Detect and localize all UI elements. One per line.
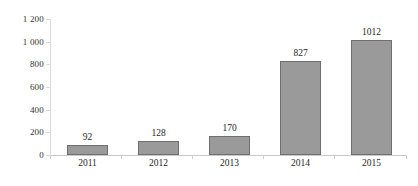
- bar-value-2013: 170: [202, 123, 257, 133]
- x-axis-tick: [121, 155, 122, 159]
- x-axis-tick: [334, 155, 335, 159]
- bar-value-2011: 92: [60, 132, 115, 142]
- bar-2015[interactable]: [351, 40, 392, 155]
- bar-value-2015: 1012: [344, 27, 399, 37]
- bar-value-2014: 827: [273, 48, 328, 58]
- bar-2012[interactable]: [138, 141, 179, 156]
- y-axis-label: 800: [4, 60, 44, 69]
- x-axis-tick: [406, 155, 407, 159]
- y-axis-tick: [46, 132, 50, 133]
- x-axis-label-2011: 2011: [60, 158, 115, 169]
- x-axis-label-2015: 2015: [344, 158, 399, 169]
- x-axis-line: [50, 155, 406, 156]
- x-axis-tick: [50, 155, 51, 159]
- x-axis-label-2014: 2014: [273, 158, 328, 169]
- x-axis-label-2013: 2013: [202, 158, 257, 169]
- bar-value-2012: 128: [131, 128, 186, 138]
- y-axis-label: 0: [4, 151, 44, 160]
- y-axis-label: 1 200: [4, 15, 44, 24]
- y-axis-tick: [46, 110, 50, 111]
- bar-2014[interactable]: [280, 61, 321, 155]
- x-axis-label-2012: 2012: [131, 158, 186, 169]
- bar-2013[interactable]: [209, 136, 250, 155]
- y-axis-label: 400: [4, 106, 44, 115]
- bar-chart: 1 200 1 000 800 600 400 200 0 92 128 170…: [0, 0, 418, 186]
- y-axis-tick: [46, 42, 50, 43]
- y-axis-label: 600: [4, 83, 44, 92]
- y-axis-label: 200: [4, 128, 44, 137]
- y-axis-tick: [46, 64, 50, 65]
- x-axis-tick: [192, 155, 193, 159]
- y-axis-tick: [46, 19, 50, 20]
- y-axis-line: [50, 19, 51, 156]
- y-axis-tick: [46, 87, 50, 88]
- bar-2011[interactable]: [67, 145, 108, 155]
- y-axis-label: 1 000: [4, 38, 44, 47]
- x-axis-tick: [263, 155, 264, 159]
